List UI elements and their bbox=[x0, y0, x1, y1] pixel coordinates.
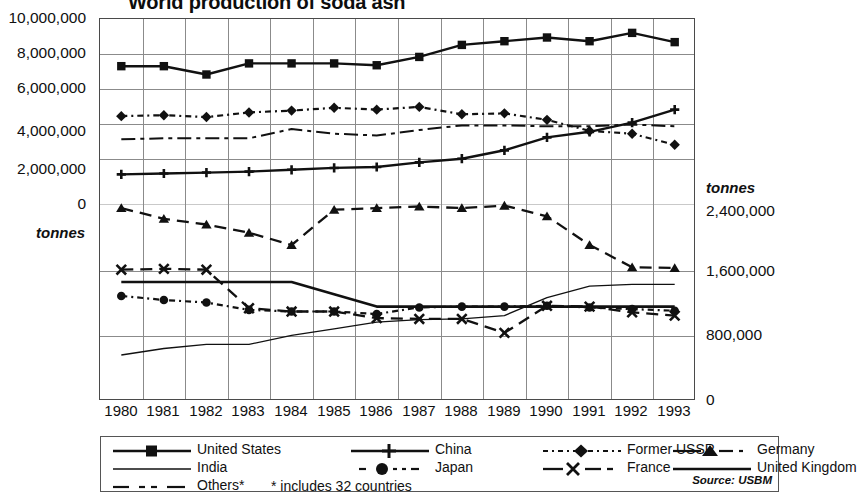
x-axis-tick-1989: 1989 bbox=[481, 402, 527, 419]
legend-label: Germany bbox=[757, 441, 815, 457]
y-axis-left-tick-2m: 2,000,000 bbox=[17, 160, 86, 178]
x-axis-tick-1981: 1981 bbox=[140, 402, 186, 419]
legend-key-thin-solid bbox=[111, 460, 193, 478]
y-axis-left-tick-6m: 6,000,000 bbox=[17, 79, 86, 97]
y-axis-left-tick-4m: 4,000,000 bbox=[17, 122, 86, 140]
chart-legend: United States China Former USSR bbox=[100, 436, 779, 492]
x-axis-tick-1980: 1980 bbox=[98, 402, 144, 419]
x-axis-tick-1990: 1990 bbox=[523, 402, 569, 419]
y-axis-right-unit: tonnes bbox=[706, 179, 755, 196]
legend-label: United Kingdom bbox=[757, 459, 857, 475]
source-note: Source: USBM bbox=[692, 474, 772, 486]
x-axis-tick-1982: 1982 bbox=[183, 402, 229, 419]
legend-key-dash-dot bbox=[111, 478, 193, 496]
x-axis-tick-1986: 1986 bbox=[353, 402, 399, 419]
series-lines bbox=[100, 19, 696, 401]
y-axis-left-unit: tonnes bbox=[36, 224, 85, 241]
y-axis-right-tick-2400k: 2,400,000 bbox=[706, 202, 775, 220]
y-axis-right-tick-800k: 800,000 bbox=[706, 326, 762, 344]
legend-label: Japan bbox=[435, 459, 473, 475]
y-axis-left-tick-8m: 8,000,000 bbox=[17, 44, 86, 62]
x-axis-tick-1985: 1985 bbox=[311, 402, 357, 419]
legend-key-dashed-triangle bbox=[671, 442, 753, 460]
chart-title: World production of soda ash bbox=[128, 0, 405, 14]
legend-label: India bbox=[197, 459, 227, 475]
legend-key-dashed-cross bbox=[541, 460, 623, 478]
plot-area bbox=[99, 18, 695, 400]
y-axis-right-tick-0: 0 bbox=[706, 391, 715, 409]
y-axis-right-tick-1600k: 1,600,000 bbox=[706, 262, 775, 280]
x-axis-tick-1992: 1992 bbox=[608, 402, 654, 419]
x-axis-tick-1984: 1984 bbox=[268, 402, 314, 419]
legend-label: France bbox=[627, 459, 671, 475]
legend-label: United States bbox=[197, 441, 281, 457]
legend-key-dotted-diamond bbox=[541, 442, 623, 460]
legend-key-solid-plus bbox=[349, 442, 431, 460]
x-axis-tick-1988: 1988 bbox=[438, 402, 484, 419]
legend-key-dotted-circle bbox=[349, 460, 431, 478]
legend-key-solid-square bbox=[111, 442, 193, 460]
y-axis-left-tick-10m: 10,000,000 bbox=[8, 9, 86, 27]
x-axis-tick-1993: 1993 bbox=[651, 402, 697, 419]
x-axis-tick-1983: 1983 bbox=[225, 402, 271, 419]
y-axis-left-tick-0: 0 bbox=[77, 195, 86, 213]
x-axis-tick-1987: 1987 bbox=[396, 402, 442, 419]
legend-footnote: * includes 32 countries bbox=[271, 478, 412, 494]
x-axis-tick-1991: 1991 bbox=[566, 402, 612, 419]
legend-label: Others* bbox=[197, 477, 244, 493]
legend-label: China bbox=[435, 441, 472, 457]
